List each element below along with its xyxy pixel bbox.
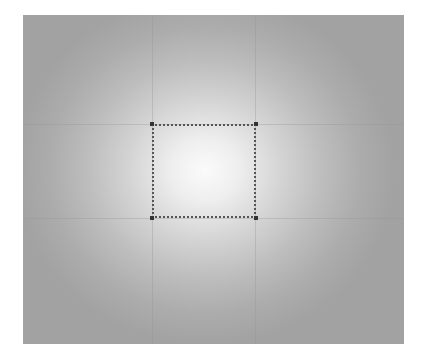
canvas[interactable]: dotted	[23, 15, 404, 344]
selection-handle-bottom-right[interactable]	[254, 216, 258, 220]
marquee-selection[interactable]: dotted	[152, 124, 256, 218]
guide-line-bottom	[23, 218, 404, 219]
workspace: dotted	[0, 0, 422, 361]
selection-handle-top-left[interactable]	[150, 122, 154, 126]
selection-handle-bottom-left[interactable]	[150, 216, 154, 220]
selection-handle-top-right[interactable]	[254, 122, 258, 126]
